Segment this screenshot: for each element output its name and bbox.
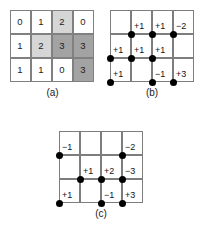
grid-cell: 3 [73, 58, 94, 82]
grid-cell: 2 [31, 34, 52, 58]
grid-cell: 3 [52, 34, 73, 58]
lattice-node-dot [119, 176, 126, 183]
lattice-node-label: +1 [155, 46, 165, 55]
lattice-node-label: +3 [125, 191, 135, 200]
panel-a: 012012331103 (a) [10, 10, 95, 82]
lattice-node-label: −2 [125, 143, 135, 152]
lattice-node-label: −2 [176, 22, 186, 31]
lattice-node-label: +1 [62, 191, 72, 200]
lattice-node-dot [170, 31, 177, 38]
lattice-node-dot [170, 79, 177, 86]
lattice-node-label: +3 [176, 70, 186, 79]
lattice-node-dot [119, 200, 126, 207]
lattice-node-dot [56, 152, 63, 159]
panel-b: +1+1−2+1+1+1+1−1+3 (b) [110, 10, 194, 82]
lattice-node-dot [98, 176, 105, 183]
panel-a-caption: (a) [10, 88, 95, 98]
lattice-grid-c: −1−2+1+2−3+1−1+3 [59, 131, 143, 203]
lattice-node-label: −3 [125, 167, 135, 176]
lattice-node-dot [77, 176, 84, 183]
grid-cell: 2 [52, 10, 73, 34]
lattice-node-label: +2 [104, 167, 114, 176]
lattice-node-dot [119, 152, 126, 159]
grid-cell: 0 [52, 58, 73, 82]
panel-c-caption: (c) [59, 209, 143, 219]
lattice-node-label: +1 [83, 167, 93, 176]
lattice-node-label: +1 [113, 46, 123, 55]
lattice-node-dot [56, 200, 63, 207]
lattice-node-dot [149, 79, 156, 86]
grid-cell [110, 10, 131, 34]
value-grid-a: 012012331103 [10, 10, 94, 82]
panel-b-caption: (b) [110, 88, 194, 98]
lattice-node-dot [107, 79, 114, 86]
lattice-node-label: −1 [104, 191, 114, 200]
lattice-node-label: +1 [134, 22, 144, 31]
lattice-node-label: −1 [155, 70, 165, 79]
grid-cell: 1 [31, 10, 52, 34]
lattice-node-label: −1 [62, 143, 72, 152]
lattice-node-label: +1 [113, 70, 123, 79]
grid-cell: 3 [73, 34, 94, 58]
grid-cell: 0 [73, 10, 94, 34]
grid-cell: 1 [10, 34, 31, 58]
lattice-node-label: +1 [134, 46, 144, 55]
lattice-node-dot [98, 200, 105, 207]
grid-cell [101, 131, 122, 155]
panel-c: −1−2+1+2−3+1−1+3 (c) [59, 131, 143, 203]
lattice-node-dot [107, 55, 114, 62]
grid-cell [80, 131, 101, 155]
lattice-node-dot [149, 55, 156, 62]
figure-root: 012012331103 (a) +1+1−2+1+1+1+1−1+3 (b) … [0, 0, 202, 225]
grid-cell: 0 [10, 10, 31, 34]
lattice-node-dot [149, 31, 156, 38]
lattice-node-dot [128, 31, 135, 38]
grid-cell: 1 [31, 58, 52, 82]
lattice-node-label: +1 [155, 22, 165, 31]
lattice-node-dot [128, 55, 135, 62]
grid-cell: 1 [10, 58, 31, 82]
lattice-grid-b: +1+1−2+1+1+1+1−1+3 [110, 10, 194, 82]
